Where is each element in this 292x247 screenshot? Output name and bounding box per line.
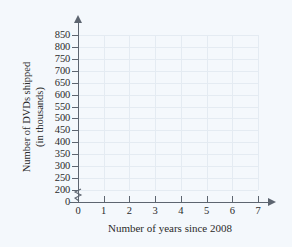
y-axis-tick [72,71,79,72]
y-axis-tick [72,130,79,131]
gridline-vertical [129,35,130,190]
gridline-horizontal [78,95,258,96]
y-axis-tick-label: 450 [44,125,70,136]
y-axis-tick-label: 550 [44,102,70,113]
y-axis-line [78,22,79,202]
gridline-vertical [181,35,182,190]
gridline-horizontal [78,71,258,72]
gridline-horizontal [78,166,258,167]
y-axis-tick [72,178,79,179]
x-axis-tick-label: 2 [120,205,138,216]
y-axis-tick-label: 500 [44,113,70,124]
y-axis-arrow-icon [74,15,82,23]
x-axis-tick [232,196,233,203]
y-axis-tick [72,118,79,119]
y-axis-tick [72,190,79,191]
gridline-vertical [104,35,105,190]
x-axis-title: Number of years since 2008 [70,222,270,235]
y-axis-tick [72,166,79,167]
y-axis-tick-label: 650 [44,78,70,89]
y-axis-tick-label: 300 [44,161,70,172]
gridline-horizontal [78,178,258,179]
x-axis-tick [181,196,182,203]
x-axis-tick-label: 4 [172,205,190,216]
y-axis-tick [72,59,79,60]
x-axis-tick-label: 1 [95,205,113,216]
gridline-horizontal [78,142,258,143]
y-axis-tick [72,35,79,36]
y-axis-tick-label: 750 [44,54,70,65]
x-axis-tick [104,196,105,203]
x-axis-tick-label: 6 [223,205,241,216]
gridline-horizontal [78,35,258,36]
y-axis-tick-label: 400 [44,137,70,148]
x-axis-arrow-icon [268,198,276,206]
x-axis-tick-label: 0 [69,205,87,216]
x-axis-tick [155,196,156,203]
x-axis-tick [78,196,79,203]
x-axis-tick-label: 5 [198,205,216,216]
y-axis-tick-label: 250 [44,173,70,184]
gridline-horizontal [78,154,258,155]
gridline-vertical [207,35,208,190]
y-axis-tick-label: 350 [44,149,70,160]
y-axis-tick [72,83,79,84]
y-axis-tick [72,154,79,155]
y-axis-tick [72,142,79,143]
y-axis-tick [72,47,79,48]
gridline-vertical [155,35,156,190]
y-axis-tick [72,95,79,96]
y-axis-title-line1: Number of DVDs shipped [21,62,32,173]
x-axis-tick [129,196,130,203]
x-axis-tick [207,196,208,203]
y-axis-title-line2: (in thousands) [33,37,46,197]
gridline-horizontal [78,83,258,84]
plot-area [78,35,258,190]
gridline-horizontal [78,59,258,60]
y-axis-tick-label: 850 [44,30,70,41]
gridline-vertical [258,35,259,190]
gridline-horizontal [78,47,258,48]
x-axis-tick-label: 7 [249,205,267,216]
y-axis-tick [72,107,79,108]
gridline-horizontal [78,130,258,131]
y-axis-tick-label: 700 [44,66,70,77]
x-axis-tick [258,196,259,203]
y-axis-title: Number of DVDs shipped (in thousands) [20,37,46,197]
x-axis-line [70,202,270,203]
y-axis-tick-label: 0 [44,197,70,208]
gridline-horizontal [78,107,258,108]
y-axis-tick-label: 600 [44,90,70,101]
x-axis-tick-label: 3 [146,205,164,216]
y-axis-tick-label: 200 [44,185,70,196]
gridline-horizontal [78,118,258,119]
chart-figure: 0200250300350400450500550600650700750800… [0,0,292,247]
y-axis-tick-label: 800 [44,42,70,53]
gridline-horizontal [78,190,258,191]
gridline-vertical [232,35,233,190]
